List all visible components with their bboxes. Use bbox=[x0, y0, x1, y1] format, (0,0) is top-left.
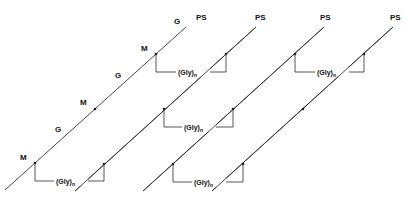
diagram-canvas: PS G M G M G M PS PS PS (Gly)n bbox=[0, 0, 410, 199]
gly-label: (Gly) bbox=[178, 69, 194, 77]
ps-label: PS bbox=[390, 13, 401, 22]
site-dot bbox=[94, 108, 97, 111]
m-label: M bbox=[20, 153, 27, 162]
spacer-bracket: (Gly)n bbox=[156, 54, 226, 78]
g-label: G bbox=[55, 125, 61, 134]
spacer-bracket: (Gly)n bbox=[173, 164, 243, 188]
g-label: G bbox=[115, 71, 121, 80]
gly-label: (Gly) bbox=[194, 179, 210, 187]
m-label: M bbox=[80, 98, 87, 107]
subscript-n: n bbox=[194, 72, 197, 78]
spacer-bracket: (Gly)n bbox=[35, 163, 104, 187]
ps-label: PS bbox=[196, 13, 207, 22]
strand-overlay bbox=[143, 27, 324, 191]
subscript-n: n bbox=[333, 72, 336, 78]
spacer-bracket: (Gly)n bbox=[164, 109, 233, 133]
ps-label: PS bbox=[255, 13, 266, 22]
subscript-n: n bbox=[200, 127, 203, 133]
g-label: G bbox=[174, 17, 180, 26]
subscript-n: n bbox=[210, 182, 213, 188]
strand-overlay bbox=[75, 27, 256, 191]
strand-4: PS bbox=[212, 13, 401, 191]
gly-label: (Gly) bbox=[317, 69, 333, 77]
ps-label: PS bbox=[320, 13, 331, 22]
gly-label: (Gly) bbox=[184, 124, 200, 132]
m-label: M bbox=[141, 44, 148, 53]
strand-overlay bbox=[212, 27, 393, 191]
subscript-n: n bbox=[72, 181, 75, 187]
spacer-bracket: (Gly)n bbox=[295, 54, 364, 78]
gly-label: (Gly) bbox=[56, 178, 72, 186]
